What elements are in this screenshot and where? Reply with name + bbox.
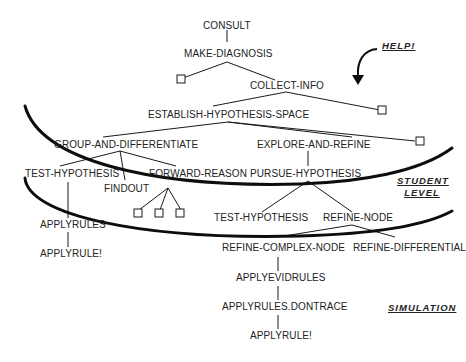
node-applyrule-left: APPLYRULE! [40, 248, 102, 259]
node-explore-and-refine: EXPLORE-AND-REFINE [257, 139, 371, 150]
goal-tree-diagram: CONSULT MAKE-DIAGNOSIS COLLECT-INFO ESTA… [0, 0, 466, 362]
node-refine-complex-node: REFINE-COMPLEX-NODE [222, 242, 345, 253]
node-refine-node: REFINE-NODE [323, 212, 393, 223]
node-forward-reason: FORWARD-REASON [149, 168, 247, 179]
node-consult: CONSULT [203, 20, 251, 31]
node-findout: FINDOUT [104, 183, 149, 194]
node-applyrule-right: APPLYRULE! [250, 330, 312, 341]
placeholder-box-icon [378, 106, 386, 114]
node-applyrules-dontrace: APPLYRULES.DONTRACE [222, 301, 348, 312]
placeholder-box-icon [155, 209, 163, 217]
edge-establish-group [103, 122, 228, 137]
edge-collect-info-box [286, 92, 380, 110]
edge-group-forward-reason [120, 151, 176, 166]
node-establish-hypothesis-space: ESTABLISH-HYPOTHESIS-SPACE [148, 109, 309, 120]
node-refine-differential: REFINE-DIFFERENTIAL [353, 242, 466, 253]
node-group-and-differentiate: GROUP-AND-DIFFERENTIATE [54, 139, 198, 150]
node-test-hypothesis-sim: TEST-HYPOTHESIS [214, 212, 308, 223]
student-level-label-line2: LEVEL [397, 187, 447, 198]
simulation-label: SIMULATION [388, 302, 456, 313]
node-applyevidrules: APPLYEVIDRULES [236, 272, 326, 283]
node-pursue-hypothesis: PURSUE-HYPOTHESIS [250, 168, 361, 179]
node-test-hypothesis: TEST-HYPOTHESIS [25, 168, 119, 179]
placeholder-box-icon [177, 75, 185, 83]
help-arrow-icon [352, 49, 377, 85]
placeholder-box-icon [134, 209, 142, 217]
edge-make-diagnosis-box [183, 62, 227, 78]
node-applyrules: APPLYRULES [40, 219, 106, 230]
student-level-label-line1: STUDENT [397, 175, 447, 186]
edge-make-diagnosis-collect-info [227, 62, 275, 80]
help-label: HELP! [382, 40, 416, 51]
edge-forward-box-3 [168, 188, 181, 210]
node-collect-info: COLLECT-INFO [250, 80, 324, 91]
node-make-diagnosis: MAKE-DIAGNOSIS [184, 48, 273, 59]
placeholder-box-icon [176, 209, 184, 217]
edge-collect-info-establish [213, 92, 286, 106]
edge-group-findout [120, 151, 125, 180]
placeholder-box-icon [416, 137, 424, 145]
edge-pursue-refine-node [308, 181, 352, 212]
